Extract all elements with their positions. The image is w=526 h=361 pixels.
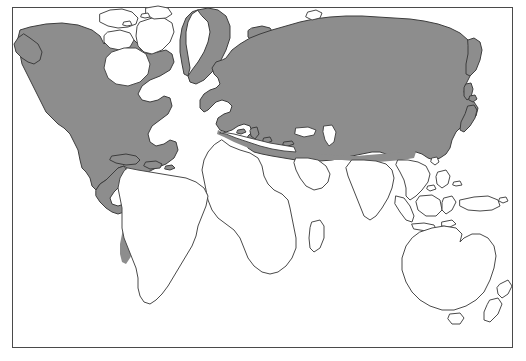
land-arctic-islet-b bbox=[141, 13, 150, 18]
land-svalbard bbox=[306, 10, 322, 20]
land-southeast-asia bbox=[396, 160, 430, 200]
land-new-zealand-north bbox=[497, 280, 512, 298]
world-distribution-map-figure bbox=[0, 0, 526, 361]
range-hispaniola bbox=[144, 161, 162, 169]
land-australia bbox=[402, 226, 496, 310]
range-balearics bbox=[237, 129, 246, 134]
land-africa bbox=[202, 140, 296, 274]
range-kamchatka bbox=[466, 38, 482, 76]
land-new-zealand-south bbox=[484, 298, 502, 322]
range-hokkaido bbox=[469, 95, 477, 102]
land-taiwan bbox=[431, 157, 439, 165]
land-bismarck bbox=[499, 197, 508, 203]
land-sumatra bbox=[395, 196, 414, 222]
land-arctic-islet-a bbox=[123, 21, 132, 26]
land-philippines bbox=[436, 170, 450, 188]
range-puerto-rico bbox=[165, 165, 175, 170]
land-baffin-island bbox=[136, 18, 174, 54]
land-borneo bbox=[416, 195, 442, 216]
land-sulawesi bbox=[442, 196, 456, 214]
land-south-america bbox=[118, 168, 208, 304]
map-canvas bbox=[0, 0, 526, 361]
land-victoria-island bbox=[104, 30, 134, 50]
land-madagascar bbox=[309, 220, 324, 252]
land-arabia bbox=[294, 158, 330, 190]
land-new-guinea bbox=[460, 196, 500, 211]
land-island-small-a bbox=[427, 185, 436, 191]
land-tasmania bbox=[448, 313, 464, 324]
land-island-small-b bbox=[453, 181, 462, 186]
water-black-sea bbox=[295, 127, 316, 137]
land-india bbox=[346, 160, 394, 220]
